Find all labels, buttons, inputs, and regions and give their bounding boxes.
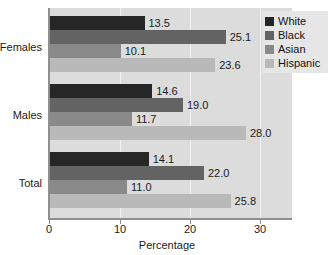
category-label-total: Total bbox=[0, 178, 42, 189]
bar-label-females-asian: 10.1 bbox=[121, 46, 146, 57]
bar-males-black[interactable] bbox=[50, 98, 183, 112]
legend-swatch-icon bbox=[265, 59, 274, 68]
bar-label-males-black: 19.0 bbox=[183, 100, 208, 111]
bar-total-black[interactable] bbox=[50, 166, 204, 180]
bar-row: 14.6 bbox=[50, 84, 292, 98]
x-tick-label-30: 30 bbox=[254, 224, 266, 235]
bar-row: 13.5 bbox=[50, 16, 292, 30]
bar-group-total: 14.1 22.0 11.0 25.8 bbox=[50, 152, 292, 208]
bar-label-males-hispanic: 28.0 bbox=[246, 128, 271, 139]
bar-row: 11.7 bbox=[50, 112, 292, 126]
category-label-males: Males bbox=[0, 110, 42, 121]
legend-item-white[interactable]: White bbox=[265, 14, 326, 28]
plot-area: 13.5 25.1 10.1 23.6 14.6 19.0 bbox=[48, 8, 292, 218]
legend-label-black: Black bbox=[278, 30, 305, 41]
bar-label-total-white: 14.1 bbox=[149, 154, 174, 165]
bar-group-males: 14.6 19.0 11.7 28.0 bbox=[50, 84, 292, 140]
bar-label-females-black: 25.1 bbox=[226, 32, 251, 43]
bar-label-females-white: 13.5 bbox=[145, 18, 170, 29]
legend-swatch-icon bbox=[265, 45, 274, 54]
x-tick-label-20: 20 bbox=[184, 224, 196, 235]
legend-swatch-icon bbox=[265, 31, 274, 40]
bar-total-white[interactable] bbox=[50, 152, 149, 166]
bar-row: 28.0 bbox=[50, 126, 292, 140]
bar-label-males-asian: 11.7 bbox=[132, 114, 157, 125]
bar-females-asian[interactable] bbox=[50, 44, 121, 58]
bar-females-white[interactable] bbox=[50, 16, 145, 30]
legend-label-hispanic: Hispanic bbox=[278, 58, 320, 69]
bar-row: 22.0 bbox=[50, 166, 292, 180]
bar-row: 25.8 bbox=[50, 194, 292, 208]
bar-total-asian[interactable] bbox=[50, 180, 127, 194]
bar-row: 19.0 bbox=[50, 98, 292, 112]
bar-row: 11.0 bbox=[50, 180, 292, 194]
bar-females-hispanic[interactable] bbox=[50, 58, 215, 72]
legend-label-white: White bbox=[278, 16, 306, 27]
bar-males-hispanic[interactable] bbox=[50, 126, 246, 140]
x-axis-title: Percentage bbox=[0, 240, 334, 251]
bar-label-total-asian: 11.0 bbox=[127, 182, 152, 193]
bar-total-hispanic[interactable] bbox=[50, 194, 231, 208]
bar-label-males-white: 14.6 bbox=[152, 86, 177, 97]
bar-row: 25.1 bbox=[50, 30, 292, 44]
bar-row: 23.6 bbox=[50, 58, 292, 72]
bar-label-females-hispanic: 23.6 bbox=[215, 60, 240, 71]
x-tick-label-10: 10 bbox=[114, 224, 126, 235]
legend: White Black Asian Hispanic bbox=[262, 11, 328, 73]
bar-row: 14.1 bbox=[50, 152, 292, 166]
category-label-females: Females bbox=[0, 42, 42, 53]
bar-males-asian[interactable] bbox=[50, 112, 132, 126]
bar-label-total-hispanic: 25.8 bbox=[231, 196, 256, 207]
bar-males-white[interactable] bbox=[50, 84, 152, 98]
x-axis-line bbox=[48, 218, 292, 220]
bar-label-total-black: 22.0 bbox=[204, 168, 229, 179]
legend-label-asian: Asian bbox=[278, 44, 306, 55]
bar-row: 10.1 bbox=[50, 44, 292, 58]
bar-females-black[interactable] bbox=[50, 30, 226, 44]
bar-chart: 13.5 25.1 10.1 23.6 14.6 19.0 bbox=[0, 0, 334, 255]
x-tick-label-0: 0 bbox=[46, 224, 52, 235]
legend-swatch-icon bbox=[265, 17, 274, 26]
legend-item-black[interactable]: Black bbox=[265, 28, 326, 42]
bar-group-females: 13.5 25.1 10.1 23.6 bbox=[50, 16, 292, 72]
legend-item-hispanic[interactable]: Hispanic bbox=[265, 56, 326, 70]
legend-item-asian[interactable]: Asian bbox=[265, 42, 326, 56]
